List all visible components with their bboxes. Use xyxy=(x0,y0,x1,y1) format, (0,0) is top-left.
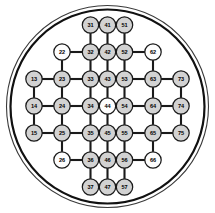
node-circle[interactable] xyxy=(99,179,115,195)
graph-node[interactable]: 41 xyxy=(99,17,115,33)
graph-node[interactable]: 14 xyxy=(26,98,42,114)
node-circle[interactable] xyxy=(145,152,161,168)
node-circle[interactable] xyxy=(173,98,189,114)
graph-node[interactable]: 43 xyxy=(99,71,115,87)
node-circle[interactable] xyxy=(116,152,132,168)
graph-node[interactable]: 47 xyxy=(99,179,115,195)
graph-node[interactable]: 62 xyxy=(145,44,161,60)
node-circle[interactable] xyxy=(54,44,70,60)
graph-node[interactable]: 65 xyxy=(145,125,161,141)
graph-node[interactable]: 33 xyxy=(82,71,98,87)
graph-node[interactable]: 63 xyxy=(145,71,161,87)
graph-node[interactable]: 24 xyxy=(54,98,70,114)
graph-node[interactable]: 57 xyxy=(116,179,132,195)
node-circle[interactable] xyxy=(99,125,115,141)
graph-node[interactable]: 32 xyxy=(82,44,98,60)
node-circle[interactable] xyxy=(26,125,42,141)
graph-node[interactable]: 15 xyxy=(26,125,42,141)
graph-node[interactable]: 34 xyxy=(82,98,98,114)
graph-node[interactable]: 74 xyxy=(173,98,189,114)
node-circle[interactable] xyxy=(82,179,98,195)
node-circle[interactable] xyxy=(82,98,98,114)
node-circle[interactable] xyxy=(145,98,161,114)
node-circle[interactable] xyxy=(26,98,42,114)
node-circle[interactable] xyxy=(99,98,115,114)
node-circle[interactable] xyxy=(145,44,161,60)
graph-node[interactable]: 44 xyxy=(99,98,115,114)
node-circle[interactable] xyxy=(82,44,98,60)
wafer-lattice-diagram: 3141512232425262132333435363731424344454… xyxy=(0,0,215,213)
graph-node[interactable]: 75 xyxy=(173,125,189,141)
node-circle[interactable] xyxy=(82,71,98,87)
node-circle[interactable] xyxy=(82,17,98,33)
node-circle[interactable] xyxy=(54,152,70,168)
node-circle[interactable] xyxy=(99,17,115,33)
graph-node[interactable]: 42 xyxy=(99,44,115,60)
node-circle[interactable] xyxy=(116,44,132,60)
graph-node[interactable]: 52 xyxy=(116,44,132,60)
node-circle[interactable] xyxy=(99,44,115,60)
node-circle[interactable] xyxy=(116,98,132,114)
graph-node[interactable]: 54 xyxy=(116,98,132,114)
graph-node[interactable]: 36 xyxy=(82,152,98,168)
node-circle[interactable] xyxy=(26,71,42,87)
graph-node[interactable]: 35 xyxy=(82,125,98,141)
graph-node[interactable]: 55 xyxy=(116,125,132,141)
node-circle[interactable] xyxy=(145,125,161,141)
node-circle[interactable] xyxy=(116,17,132,33)
graph-node[interactable]: 66 xyxy=(145,152,161,168)
graph-node[interactable]: 37 xyxy=(82,179,98,195)
node-circle[interactable] xyxy=(99,71,115,87)
node-circle[interactable] xyxy=(54,98,70,114)
graph-node[interactable]: 46 xyxy=(99,152,115,168)
node-circle[interactable] xyxy=(54,71,70,87)
node-circle[interactable] xyxy=(116,179,132,195)
graph-node[interactable]: 64 xyxy=(145,98,161,114)
graph-node[interactable]: 22 xyxy=(54,44,70,60)
graph-node[interactable]: 51 xyxy=(116,17,132,33)
graph-node[interactable]: 45 xyxy=(99,125,115,141)
node-circle[interactable] xyxy=(116,71,132,87)
graph-node[interactable]: 53 xyxy=(116,71,132,87)
graph-node[interactable]: 56 xyxy=(116,152,132,168)
node-circle[interactable] xyxy=(54,125,70,141)
graph-node[interactable]: 26 xyxy=(54,152,70,168)
graph-node[interactable]: 73 xyxy=(173,71,189,87)
node-circle[interactable] xyxy=(173,71,189,87)
diagram-canvas: 3141512232425262132333435363731424344454… xyxy=(0,0,215,213)
graph-node[interactable]: 31 xyxy=(82,17,98,33)
node-circle[interactable] xyxy=(82,125,98,141)
node-circle[interactable] xyxy=(116,125,132,141)
graph-node[interactable]: 23 xyxy=(54,71,70,87)
graph-node[interactable]: 25 xyxy=(54,125,70,141)
node-circle[interactable] xyxy=(173,125,189,141)
graph-node[interactable]: 13 xyxy=(26,71,42,87)
node-circle[interactable] xyxy=(99,152,115,168)
node-circle[interactable] xyxy=(82,152,98,168)
node-circle[interactable] xyxy=(145,71,161,87)
